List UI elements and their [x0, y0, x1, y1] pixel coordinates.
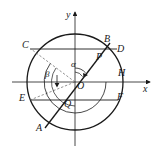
point-label-d: D [117, 44, 124, 54]
angle-label-beta: β [45, 70, 49, 79]
point-label-q: Q [64, 99, 71, 109]
x-axis-label: x [143, 84, 147, 94]
y-axis-label: y [66, 10, 70, 20]
point-label-h: H [118, 68, 125, 78]
angle-arc-alpha-inner [75, 72, 83, 77]
origin-label: O [77, 81, 84, 91]
point-label-f: F [117, 92, 123, 102]
beta-arrowhead-icon [55, 83, 60, 88]
point-label-c: C [22, 40, 29, 50]
geometry-canvas [0, 0, 157, 154]
point-label-p: P [96, 52, 102, 62]
dashed-line-oc [31, 49, 75, 82]
angle-label-alpha: α [71, 60, 76, 69]
point-label-e: E [19, 93, 25, 103]
geometry-figure: y x C B D P H E F Q A O α β [0, 0, 157, 154]
point-label-b: B [104, 34, 110, 44]
point-label-a: A [36, 123, 42, 133]
